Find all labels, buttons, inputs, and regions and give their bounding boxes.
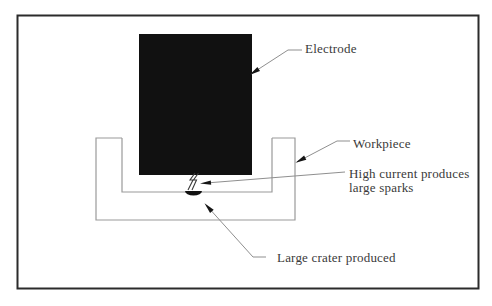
crater-label: Large crater produced [277, 250, 396, 265]
crater-shape [185, 191, 202, 196]
edm-process-diagram: Electrode Workpiece High current produce… [0, 0, 492, 306]
spark-label-line2: large sparks [349, 180, 414, 195]
spark-label-line1: High current produces [349, 166, 469, 181]
workpiece-arrowhead-icon [296, 156, 307, 163]
electrode-label: Electrode [305, 41, 357, 56]
spark-icon [188, 173, 199, 190]
figure-canvas: Electrode Workpiece High current produce… [0, 0, 492, 306]
workpiece-label: Workpiece [353, 136, 411, 151]
electrode-rect [139, 34, 252, 175]
spark-arrowhead-icon [200, 180, 211, 184]
crater-leader-line [207, 206, 266, 257]
